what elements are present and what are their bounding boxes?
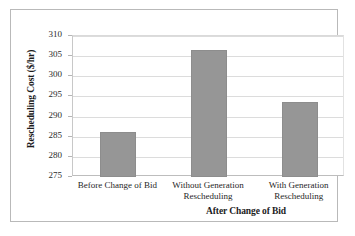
x-axis-category-label: Before Change of Bid <box>72 180 163 191</box>
plot-area <box>72 35 344 176</box>
bar <box>100 132 136 177</box>
bar <box>191 50 227 177</box>
y-axis-tick-label: 290 <box>36 111 62 120</box>
x-axis-category-label: With Generation Rescheduling <box>253 180 344 202</box>
y-axis-tick-label: 295 <box>36 90 62 99</box>
bar <box>282 102 318 177</box>
y-axis-tick-label: 275 <box>36 171 62 180</box>
y-axis-tick-label: 310 <box>36 30 62 39</box>
y-axis-tick-label: 285 <box>36 131 62 140</box>
chart-figure-frame: Rescheduling Cost ($/hr) 275280285290295… <box>10 9 338 222</box>
y-axis-tick-mark <box>68 176 72 177</box>
y-axis-tick-label: 305 <box>36 50 62 59</box>
y-axis-tick-label: 280 <box>36 151 62 160</box>
x-axis-title: After Change of Bid <box>161 206 331 216</box>
gridline <box>73 36 343 37</box>
y-axis-tick-label: 300 <box>36 70 62 79</box>
x-axis-category-label: Without Generation Rescheduling <box>163 180 254 202</box>
